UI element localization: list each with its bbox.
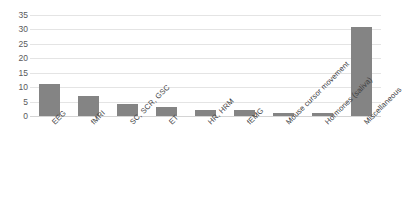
bar-series [30, 15, 381, 116]
bar-slot [108, 15, 147, 116]
y-tick-label: 15 [2, 68, 28, 77]
y-tick-label: 10 [2, 83, 28, 92]
x-slot: Hormones (saliva) [303, 117, 342, 213]
y-tick-label: 30 [2, 25, 28, 34]
x-slot: ET [147, 117, 186, 213]
x-slot: fEMG [225, 117, 264, 213]
bar-slot [30, 15, 69, 116]
x-slot: HR, HRM [186, 117, 225, 213]
y-tick-label: 0 [2, 112, 28, 121]
x-slot: Mouse cursor movement [264, 117, 303, 213]
bar[interactable] [351, 27, 372, 116]
y-axis: 35 30 25 20 15 10 5 0 [0, 15, 28, 116]
x-axis-labels: EEG fMRI SC, SCR, GSC ET HR, HRM fEMG Mo… [30, 117, 381, 213]
bar-slot [69, 15, 108, 116]
y-tick-label: 5 [2, 97, 28, 106]
x-slot: Miscellaneous [342, 117, 381, 213]
y-tick-label: 20 [2, 54, 28, 63]
x-slot: EEG [30, 117, 69, 213]
bar-slot [264, 15, 303, 116]
y-tick-label: 35 [2, 11, 28, 20]
bar-slot [186, 15, 225, 116]
x-slot: fMRI [69, 117, 108, 213]
y-tick-label: 25 [2, 40, 28, 49]
x-slot: SC, SCR, GSC [108, 117, 147, 213]
